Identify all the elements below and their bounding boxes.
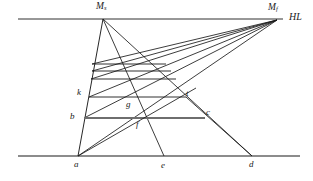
label-ms-subscript: s — [104, 4, 107, 11]
label-point-f: f — [136, 120, 139, 129]
label-horizon-line: HL — [289, 12, 302, 22]
label-point-c: c — [206, 108, 210, 117]
label-point-t: t — [186, 89, 189, 98]
mf-ray-3 — [91, 20, 277, 79]
label-measuring-point-side: Ms — [96, 2, 106, 12]
label-point-e: e — [161, 161, 165, 170]
mf-ray-5 — [84, 20, 277, 118]
diagonals — [78, 88, 252, 156]
label-mf-subscript: f — [276, 5, 278, 12]
perspective-construction-svg — [0, 0, 313, 181]
ms-ray-fan — [78, 19, 252, 156]
label-point-g: g — [126, 100, 131, 109]
label-point-b: b — [70, 112, 75, 121]
label-point-a: a — [74, 160, 79, 169]
label-measuring-point-front: Mf — [268, 3, 278, 13]
diagonal-t-to-d — [186, 97, 252, 156]
mf-ray-2 — [92, 20, 277, 71]
label-point-d: d — [249, 160, 254, 169]
ms-left-edge-to-a — [78, 19, 103, 156]
label-point-k: k — [77, 88, 81, 97]
diagram-canvas: Ms Mf HL a e d b k c t g f — [0, 0, 313, 181]
